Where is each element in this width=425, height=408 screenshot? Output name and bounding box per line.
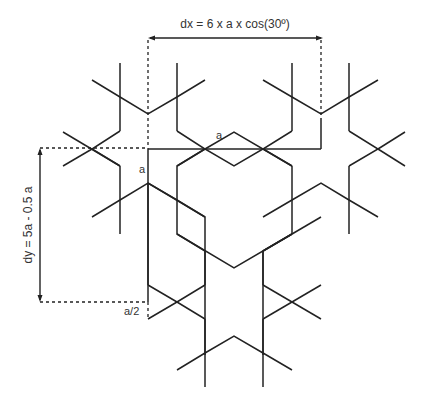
- star-bottom: [148, 251, 321, 387]
- dy-label: dy = 5a - 0.5 a: [21, 186, 35, 263]
- dy-dimension: [38, 148, 149, 318]
- a-label-top: a: [216, 129, 223, 141]
- reference-lines: [148, 118, 321, 285]
- a-label-left: a: [139, 163, 146, 175]
- dx-dimension: [148, 36, 323, 150]
- tiling-diagram: dx = 6 x a x cos(30º) dy = 5a - 0.5 a a …: [0, 0, 425, 408]
- star-center: [148, 149, 321, 355]
- dx-label: dx = 6 x a x cos(30º): [180, 17, 289, 31]
- a-half-label: a/2: [124, 305, 139, 317]
